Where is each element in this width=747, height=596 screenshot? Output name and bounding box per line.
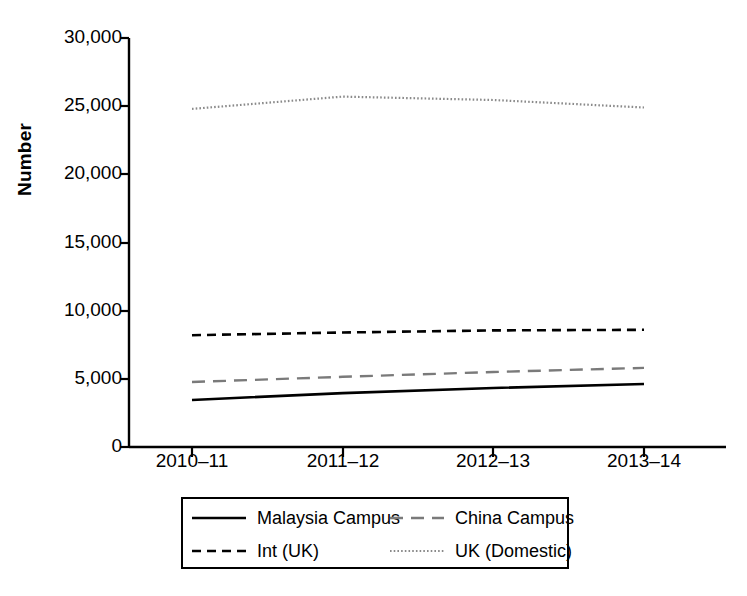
legend-label: Malaysia Campus — [257, 509, 400, 527]
y-tick-label: 0 — [18, 435, 122, 457]
series-line-malaysia-campus — [192, 384, 644, 400]
x-tick-label-2012-13: 2012–13 — [423, 450, 563, 472]
axis-lines — [129, 38, 726, 447]
legend-swatch-long-dash-line-icon — [389, 511, 445, 525]
x-tick-label-2011-12: 2011–12 — [273, 450, 413, 472]
legend-swatch-short-dash-line-icon — [191, 544, 247, 558]
legend-item-china-campus[interactable]: China Campus — [389, 503, 574, 533]
y-tick-label: 15,000 — [18, 231, 122, 253]
y-tick-label: 10,000 — [18, 299, 122, 321]
chart-figure: Number 30,000 25,000 20,000 15,000 10,00… — [0, 0, 747, 596]
series-line-china-campus — [192, 368, 644, 382]
legend-item-int-uk[interactable]: Int (UK) — [191, 536, 319, 566]
x-tick-label-2013-14: 2013–14 — [574, 450, 714, 472]
series-line-int-uk — [192, 330, 644, 335]
y-tick-label: 20,000 — [18, 162, 122, 184]
legend-label: China Campus — [455, 509, 574, 527]
legend-swatch-dotted-line-icon — [389, 544, 445, 558]
legend-item-malaysia-campus[interactable]: Malaysia Campus — [191, 503, 400, 533]
y-tick-label: 5,000 — [18, 367, 122, 389]
x-tick-label-2010-11: 2010–11 — [122, 450, 262, 472]
chart-legend: Malaysia Campus China Campus Int (UK) — [181, 497, 569, 569]
cropped-caption-artifact — [40, 583, 700, 596]
legend-label: UK (Domestic) — [455, 542, 572, 560]
legend-label: Int (UK) — [257, 542, 319, 560]
y-tick-label: 30,000 — [18, 26, 122, 48]
legend-swatch-solid-line-icon — [191, 511, 247, 525]
y-tick-label: 25,000 — [18, 94, 122, 116]
legend-item-uk-domestic[interactable]: UK (Domestic) — [389, 536, 572, 566]
y-axis-title: Number — [14, 123, 36, 196]
series-line-uk-domestic — [192, 97, 644, 109]
series-lines — [192, 97, 644, 400]
